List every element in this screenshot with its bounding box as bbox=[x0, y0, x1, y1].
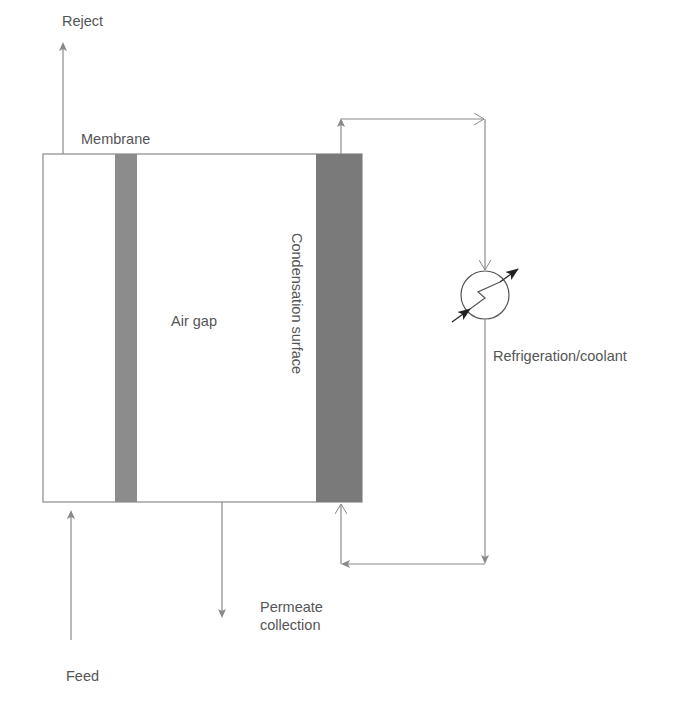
air-gap-label: Air gap bbox=[171, 313, 217, 330]
membrane-label: Membrane bbox=[81, 131, 150, 148]
condensation-surface-label: Condensation surface bbox=[288, 233, 305, 374]
heat-exchanger-icon bbox=[452, 269, 518, 322]
feed-label: Feed bbox=[66, 668, 99, 685]
permeate-label-line1: Permeate bbox=[260, 599, 323, 616]
refrigeration-label: Refrigeration/coolant bbox=[493, 348, 627, 365]
permeate-label-line2: collection bbox=[260, 617, 320, 634]
membrane-strip bbox=[115, 154, 137, 502]
reject-label: Reject bbox=[62, 13, 103, 30]
condensation-surface bbox=[316, 154, 362, 502]
